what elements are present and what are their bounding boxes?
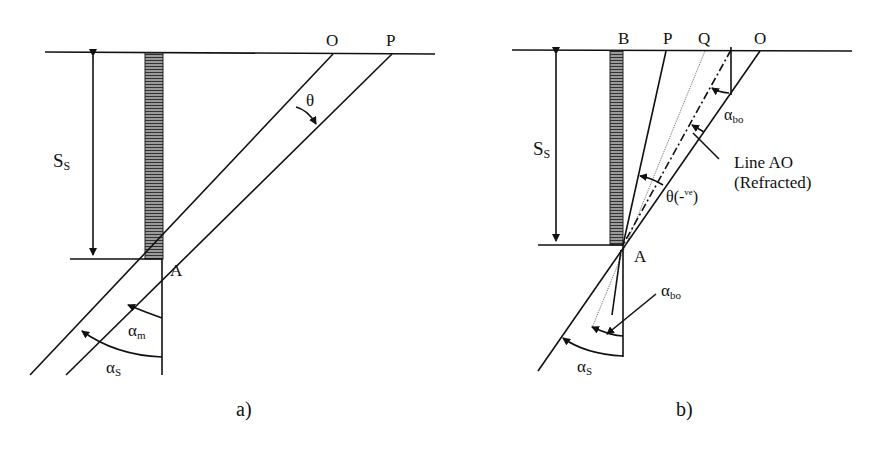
alpha-bo-bottom-label: αbo — [661, 281, 681, 301]
ground-surface-line — [512, 50, 852, 51]
point-a-label: A — [634, 247, 647, 266]
line-ao-label: Line AO — [734, 153, 793, 172]
point-o-label: O — [754, 29, 766, 48]
alpha-bo-top-arc-arrow — [712, 88, 729, 93]
refracted-label: (Refracted) — [734, 173, 811, 192]
retaining-wall — [145, 53, 163, 259]
retaining-wall — [610, 51, 623, 245]
caption-a: a) — [236, 398, 252, 421]
dash-dot-line — [623, 50, 731, 245]
point-a-label: A — [170, 261, 183, 280]
ss-label: SS — [533, 138, 550, 161]
line-ao-arc-arrow — [692, 125, 704, 132]
alpha-m-label: αm — [128, 321, 146, 341]
alpha-m-arc-arrow — [128, 305, 162, 318]
alpha-bo-top-label: αbo — [724, 106, 744, 125]
alpha-s-arc-arrow — [82, 331, 162, 357]
panel-a: SS θ αm αS O P A a) — [30, 31, 435, 421]
line-ao-pointer — [693, 133, 719, 159]
alpha-s-label: αS — [577, 357, 592, 377]
refraction-diagram: SS θ αm αS O P A a) SS — [0, 0, 877, 459]
line-ap — [623, 51, 666, 245]
point-p-label: P — [663, 29, 672, 48]
line-ao — [30, 54, 333, 375]
caption-b: b) — [676, 398, 693, 421]
alpha-s-arc-arrow — [563, 338, 623, 356]
alpha-s-label: αS — [106, 358, 121, 378]
line-ao-refracted — [538, 51, 760, 371]
theta-label: θ(-ve) — [666, 187, 698, 206]
line-ap — [66, 54, 392, 375]
point-p-label: P — [386, 31, 395, 50]
panel-b: SS αbo Line AO (Refracted) θ(-ve) αbo αS — [512, 29, 852, 421]
point-b-label: B — [618, 29, 629, 48]
alpha-bo-bottom-arc-arrow — [592, 327, 623, 336]
theta-label: θ — [306, 91, 314, 110]
ground-surface-line — [45, 52, 435, 54]
point-q-label: Q — [698, 29, 710, 48]
ss-label: SS — [53, 150, 70, 173]
point-o-label: O — [326, 31, 338, 50]
line-below-a — [612, 250, 621, 315]
